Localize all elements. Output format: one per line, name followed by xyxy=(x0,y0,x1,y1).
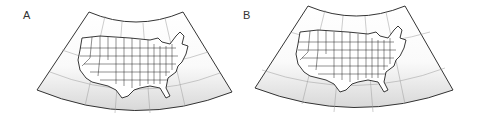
maps-canvas xyxy=(0,0,477,125)
map-panel-b xyxy=(255,6,453,112)
map-panel-a xyxy=(37,12,232,113)
